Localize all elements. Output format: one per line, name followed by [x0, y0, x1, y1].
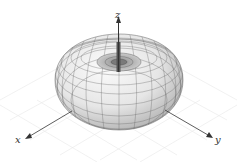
x-axis	[25, 111, 72, 139]
y-axis-label: y	[215, 134, 221, 145]
x-axis-label: x	[15, 134, 21, 145]
torus-figure	[0, 0, 237, 162]
z-axis-label: z	[115, 9, 120, 20]
y-axis	[165, 110, 213, 138]
z-axis	[116, 16, 121, 72]
